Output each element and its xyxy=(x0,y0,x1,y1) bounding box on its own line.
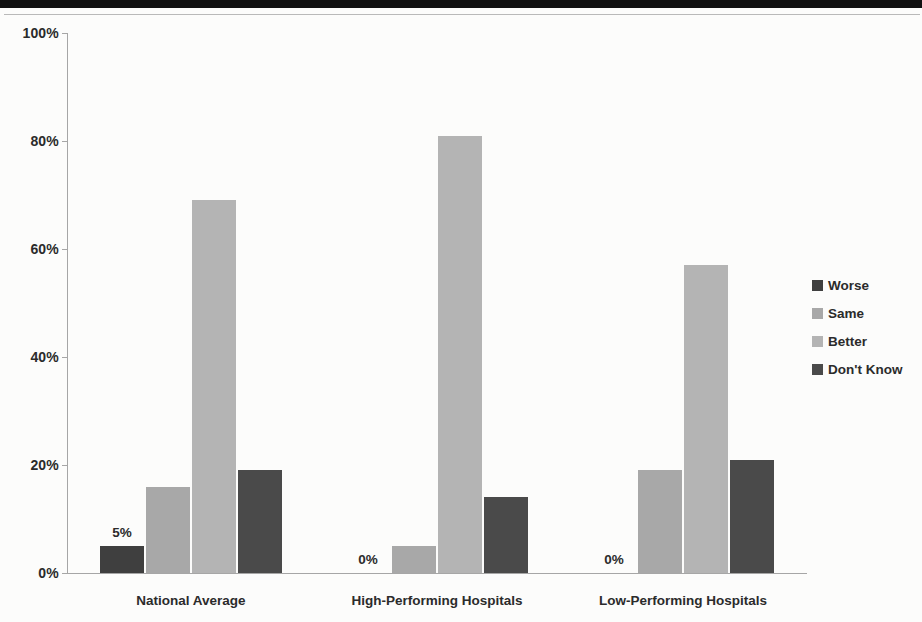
bar[interactable] xyxy=(438,136,482,573)
bar[interactable] xyxy=(146,487,190,573)
bar[interactable] xyxy=(392,546,436,573)
legend-swatch-icon xyxy=(812,308,823,319)
chart-legend: WorseSameBetterDon't Know xyxy=(812,271,920,383)
legend-item[interactable]: Don't Know xyxy=(812,355,920,383)
legend-item[interactable]: Worse xyxy=(812,271,920,299)
y-axis-tick-label: 20% xyxy=(30,457,59,473)
legend-swatch-icon xyxy=(812,336,823,347)
bar-chart: 0%20%40%60%80%100% 5%National Average0%H… xyxy=(0,18,922,622)
bar[interactable] xyxy=(730,460,774,573)
top-divider-rule xyxy=(4,14,920,15)
y-axis-tick-label: 0% xyxy=(38,565,59,581)
legend-item[interactable]: Same xyxy=(812,299,920,327)
top-black-band xyxy=(0,0,922,8)
bar-value-label: 0% xyxy=(592,552,636,567)
y-axis-tick-label: 60% xyxy=(30,241,59,257)
x-axis-category-label: Low-Performing Hospitals xyxy=(560,593,806,608)
bar[interactable] xyxy=(238,470,282,573)
legend-item[interactable]: Better xyxy=(812,327,920,355)
y-axis-tick-label: 80% xyxy=(30,133,59,149)
y-axis-tick-label: 40% xyxy=(30,349,59,365)
bar-group: 0%High-Performing Hospitals xyxy=(314,33,560,573)
legend-label: Worse xyxy=(828,278,869,293)
x-axis-category-label: High-Performing Hospitals xyxy=(314,593,560,608)
y-axis-tick xyxy=(62,573,68,574)
legend-swatch-icon xyxy=(812,364,823,375)
x-axis-category-label: National Average xyxy=(68,593,314,608)
bar[interactable] xyxy=(484,497,528,573)
bar-value-label: 5% xyxy=(100,525,144,540)
bar-group: 0%Low-Performing Hospitals xyxy=(560,33,806,573)
chart-page: 0%20%40%60%80%100% 5%National Average0%H… xyxy=(0,0,922,622)
bar[interactable] xyxy=(192,200,236,573)
bar-value-label: 0% xyxy=(346,552,390,567)
legend-label: Better xyxy=(828,334,867,349)
legend-label: Same xyxy=(828,306,864,321)
x-axis-line xyxy=(67,573,807,574)
bar-group: 5%National Average xyxy=(68,33,314,573)
legend-label: Don't Know xyxy=(828,362,902,377)
legend-swatch-icon xyxy=(812,280,823,291)
bar[interactable] xyxy=(100,546,144,573)
y-axis-tick-label: 100% xyxy=(22,25,59,41)
bar[interactable] xyxy=(638,470,682,573)
plot-area: 5%National Average0%High-Performing Hosp… xyxy=(68,33,806,573)
bar[interactable] xyxy=(684,265,728,573)
